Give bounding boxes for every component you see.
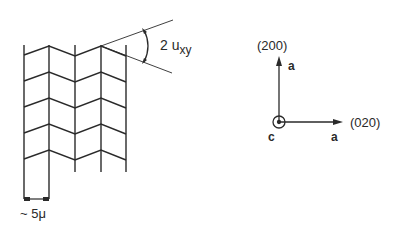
- horizontal-axis-label: a: [331, 130, 338, 144]
- arrow-right-icon: [333, 119, 343, 125]
- vertical-index-label: (200): [257, 38, 287, 53]
- scale-label: ~ 5μ: [20, 206, 46, 221]
- angle-arc: [144, 30, 148, 62]
- angle-label: 2 uxy: [160, 37, 191, 57]
- out-of-plane-dot-icon: [278, 121, 281, 124]
- arrow-up-icon: [276, 56, 282, 66]
- domain-diagram: 2 uxy ~ 5μ (200) a (020) a c: [0, 0, 405, 233]
- zigzag-domain-grid: [24, 45, 126, 199]
- crystal-axes: [273, 56, 343, 128]
- vertical-axis-label: a: [288, 59, 295, 73]
- scale-bar: [24, 197, 49, 201]
- horizontal-index-label: (020): [350, 115, 380, 130]
- origin-axis-label: c: [268, 130, 275, 144]
